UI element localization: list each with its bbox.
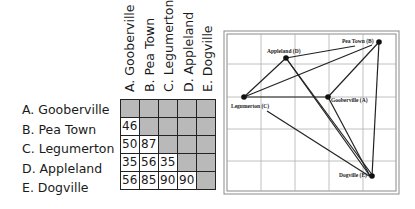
matrix-cell: [178, 154, 197, 172]
matrix-cell: 56: [140, 154, 159, 172]
matrix-cell: [121, 100, 140, 118]
matrix-cell: 46: [121, 118, 140, 136]
matrix-cell: [159, 136, 178, 154]
column-header-b: B. Pea Town: [140, 72, 160, 92]
row-label-a: A. Gooberville: [22, 100, 114, 120]
matrix-cell: [178, 118, 197, 136]
distance-matrix: 46 50 87 35 56 35 56 85 90 90: [120, 99, 216, 190]
node-appleland: [283, 55, 289, 61]
matrix-cell: [140, 100, 159, 118]
row-label-d: D. Appleland: [22, 159, 114, 179]
label-gooberville: Gooberville (A): [331, 97, 368, 104]
matrix-row: 56 85 90 90: [121, 172, 216, 190]
node-pea-town: [376, 39, 382, 45]
column-header-d: D. Appleland: [179, 72, 199, 92]
row-label-b: B. Pea Town: [22, 120, 114, 140]
node-dogville: [369, 173, 375, 179]
matrix-cell: 90: [178, 172, 197, 190]
town-map: Appleland (D) Pea Town (B) Legumerton (C…: [222, 29, 402, 197]
label-legumerton: Legumerton (C): [231, 103, 269, 110]
matrix-cell: [159, 118, 178, 136]
node-gooberville: [325, 94, 331, 100]
matrix-cell: 56: [121, 172, 140, 190]
matrix-cell: [197, 172, 216, 190]
matrix-cell: [197, 154, 216, 172]
matrix-row: 50 87: [121, 136, 216, 154]
row-label-e: E. Dogville: [22, 178, 114, 198]
matrix-cell: [140, 118, 159, 136]
matrix-row: 35 56 35: [121, 154, 216, 172]
matrix-cell: [197, 100, 216, 118]
node-legumerton: [241, 94, 247, 100]
column-header-e: E. Dogville: [198, 72, 218, 92]
row-label-c: C. Legumerton: [22, 139, 114, 159]
matrix-cell: [178, 100, 197, 118]
matrix-cell: [159, 100, 178, 118]
matrix-cell: [197, 118, 216, 136]
matrix-row: 46: [121, 118, 216, 136]
row-labels: A. Gooberville B. Pea Town C. Legumerton…: [22, 100, 114, 198]
matrix-cell: 35: [121, 154, 140, 172]
matrix-cell: 90: [159, 172, 178, 190]
label-pea-town: Pea Town (B): [342, 38, 374, 45]
column-headers: A. Gooberville B. Pea Town C. Legumerton…: [120, 0, 218, 96]
column-header-a: A. Gooberville: [120, 72, 140, 92]
matrix-cell: 35: [159, 154, 178, 172]
matrix-cell: [197, 136, 216, 154]
column-header-c: C. Legumerton: [159, 72, 179, 92]
matrix-cell: 50: [121, 136, 140, 154]
label-appleland: Appleland (D): [267, 48, 301, 55]
label-dogville: Dogville (E): [339, 172, 367, 179]
matrix-cell: [178, 136, 197, 154]
matrix-row: [121, 100, 216, 118]
matrix-cell: 85: [140, 172, 159, 190]
matrix-cell: 87: [140, 136, 159, 154]
